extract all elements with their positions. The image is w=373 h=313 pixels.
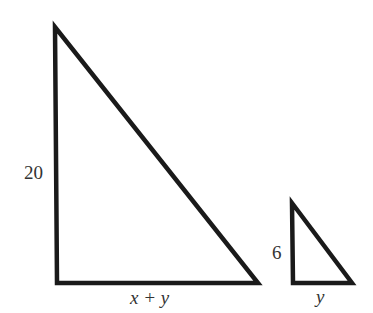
similar-triangles-diagram: 20 x + y 6 y	[0, 0, 373, 313]
triangles-drawing	[0, 0, 373, 313]
large-triangle-height-label: 20	[24, 163, 43, 182]
small-right-triangle	[292, 203, 352, 283]
large-triangle-base-label: x + y	[130, 288, 169, 307]
large-right-triangle	[55, 27, 258, 283]
small-triangle-base-label: y	[316, 287, 324, 306]
small-triangle-height-label: 6	[272, 243, 282, 262]
